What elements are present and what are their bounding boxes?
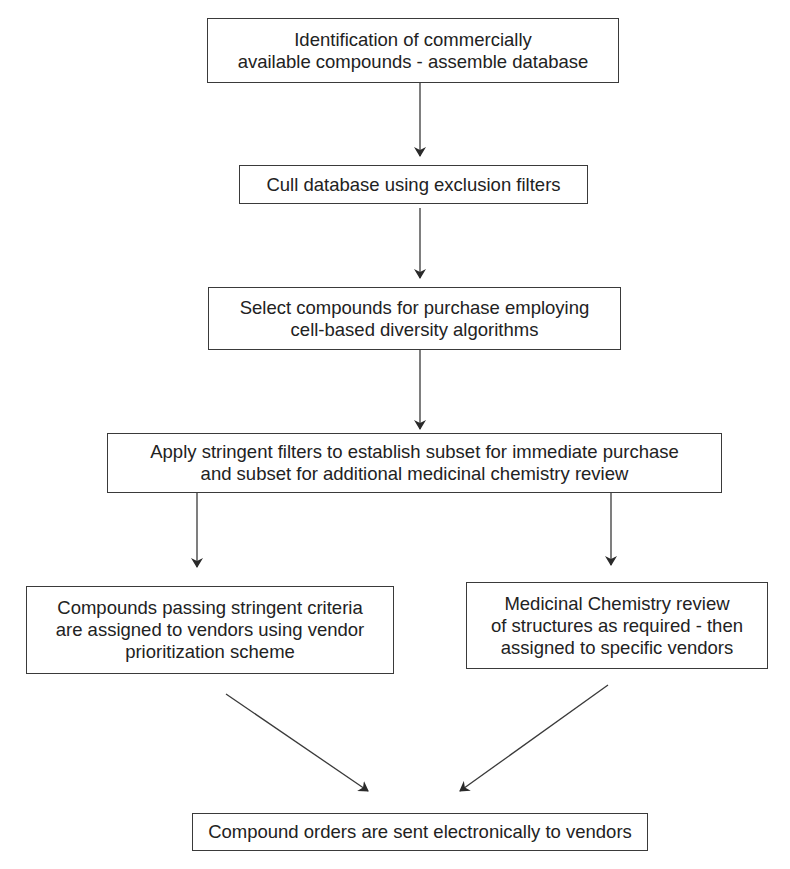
- node-passing-line-3: prioritization scheme: [56, 641, 365, 663]
- node-passing-line-2: are assigned to vendors using vendor: [56, 619, 365, 641]
- node-orders-sent: Compound orders are sent electronically …: [192, 813, 648, 851]
- node-select-compounds: Select compounds for purchase employing …: [208, 287, 621, 350]
- node-cull-line-1: Cull database using exclusion filters: [266, 174, 560, 196]
- arrow-medchem-review-to-orders: [460, 685, 608, 791]
- arrow-passing-criteria-to-orders: [226, 694, 368, 791]
- node-apply-line-2: and subset for additional medicinal chem…: [150, 463, 679, 485]
- node-passing-line-1: Compounds passing stringent criteria: [56, 597, 365, 619]
- node-apply-stringent-filters: Apply stringent filters to establish sub…: [107, 433, 722, 493]
- node-identify-line-1: Identification of commercially: [238, 29, 589, 51]
- node-orders-line-1: Compound orders are sent electronically …: [208, 821, 632, 843]
- node-identify-compounds: Identification of commercially available…: [207, 18, 619, 83]
- node-identify-line-2: available compounds - assemble database: [238, 51, 589, 73]
- node-select-line-2: cell-based diversity algorithms: [240, 319, 590, 341]
- node-medicinal-chemistry-review: Medicinal Chemistry review of structures…: [466, 582, 768, 669]
- node-compounds-passing-criteria: Compounds passing stringent criteria are…: [26, 586, 394, 674]
- node-medchem-line-1: Medicinal Chemistry review: [491, 593, 743, 615]
- node-select-line-1: Select compounds for purchase employing: [240, 297, 590, 319]
- node-medchem-line-3: assigned to specific vendors: [491, 637, 743, 659]
- node-medchem-line-2: of structures as required - then: [491, 615, 743, 637]
- node-apply-line-1: Apply stringent filters to establish sub…: [150, 441, 679, 463]
- node-cull-database: Cull database using exclusion filters: [239, 165, 588, 204]
